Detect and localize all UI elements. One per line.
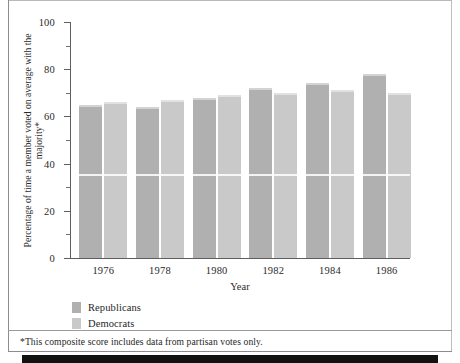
bar-top-highlight — [306, 83, 329, 85]
y-axis-tick-minor — [66, 93, 71, 94]
y-axis-tick-label: 20 — [44, 205, 55, 216]
bar-top-highlight — [388, 93, 411, 95]
page-frame-bottom-rule — [8, 351, 452, 352]
bar-top-highlight — [331, 90, 354, 92]
y-axis-tick-major: 40 — [64, 164, 71, 165]
y-axis-tick-major: 80 — [64, 69, 71, 70]
y-axis-tick-minor — [66, 234, 71, 235]
page-bottom-black-bar — [22, 355, 438, 363]
plot-area: 020406080100 197619781980198219841986 — [70, 22, 410, 259]
chart-page: Percentage of time a member voted on ave… — [0, 0, 460, 363]
y-axis-tick-major: 100 — [64, 22, 71, 23]
x-axis-tick-label: 1984 — [319, 265, 341, 276]
bar-top-highlight — [136, 107, 159, 109]
footnote-text: *This composite score includes data from… — [20, 336, 263, 347]
bar-republicans-1982 — [249, 88, 272, 258]
bar-group — [363, 22, 411, 258]
bar-democrats-1984 — [331, 90, 354, 258]
bar-democrats-1986 — [388, 93, 411, 258]
bar-top-highlight — [274, 93, 297, 95]
chart-legend: Republicans Democrats — [72, 299, 141, 331]
x-axis-tick-label: 1986 — [376, 265, 398, 276]
page-frame-right-rule — [451, 0, 452, 352]
bar-republicans-1976 — [79, 105, 102, 258]
x-axis-tick-label: 1976 — [92, 265, 114, 276]
legend-label-republicans: Republicans — [88, 302, 141, 313]
x-axis-tick-label: 1980 — [206, 265, 228, 276]
bar-top-highlight — [249, 88, 272, 90]
bar-democrats-1980 — [218, 95, 241, 258]
bar-group — [193, 22, 241, 258]
x-axis-tick-label: 1982 — [262, 265, 284, 276]
bar-top-highlight — [104, 102, 127, 104]
bar-republicans-1986 — [363, 74, 386, 258]
legend-swatch-icon-democrats — [72, 318, 81, 329]
bar-top-highlight — [363, 74, 386, 76]
bar-group — [79, 22, 127, 258]
footnote-top-rule — [8, 330, 452, 331]
bar-top-highlight — [193, 98, 216, 100]
y-axis-tick-label: 80 — [44, 64, 55, 75]
legend-label-democrats: Democrats — [88, 318, 134, 329]
bar-democrats-1982 — [274, 93, 297, 258]
bar-top-highlight — [218, 95, 241, 97]
page-frame-left-rule — [8, 0, 9, 352]
y-axis-tick-label: 60 — [44, 111, 55, 122]
y-axis-tick-major: 0 — [64, 258, 71, 259]
x-axis-title: Year — [70, 281, 410, 292]
y-axis-tick-label: 0 — [50, 253, 55, 264]
bar-republicans-1978 — [136, 107, 159, 258]
bar-group — [249, 22, 297, 258]
legend-item-democrats: Democrats — [72, 315, 141, 331]
y-axis-tick-label: 100 — [39, 17, 55, 28]
bar-democrats-1976 — [104, 102, 127, 258]
bar-top-highlight — [161, 100, 184, 102]
x-axis-line — [70, 258, 410, 259]
y-axis-tick-major: 20 — [64, 211, 71, 212]
page-frame-top-rule — [8, 0, 452, 1]
x-axis-tick-label: 1978 — [149, 265, 171, 276]
legend-item-republicans: Republicans — [72, 299, 141, 315]
y-axis-tick-label: 40 — [44, 158, 55, 169]
y-axis-tick-minor — [66, 46, 71, 47]
bar-democrats-1978 — [161, 100, 184, 258]
y-axis-tick-minor — [66, 140, 71, 141]
bar-group — [136, 22, 184, 258]
y-axis-title: Percentage of time a member voted on ave… — [20, 22, 46, 259]
y-axis-tick-minor — [66, 187, 71, 188]
y-axis-tick-major: 60 — [64, 116, 71, 117]
bar-group — [306, 22, 354, 258]
legend-swatch-icon-republicans — [72, 302, 81, 313]
bar-republicans-1980 — [193, 98, 216, 258]
bar-top-highlight — [79, 105, 102, 107]
bar-republicans-1984 — [306, 83, 329, 258]
